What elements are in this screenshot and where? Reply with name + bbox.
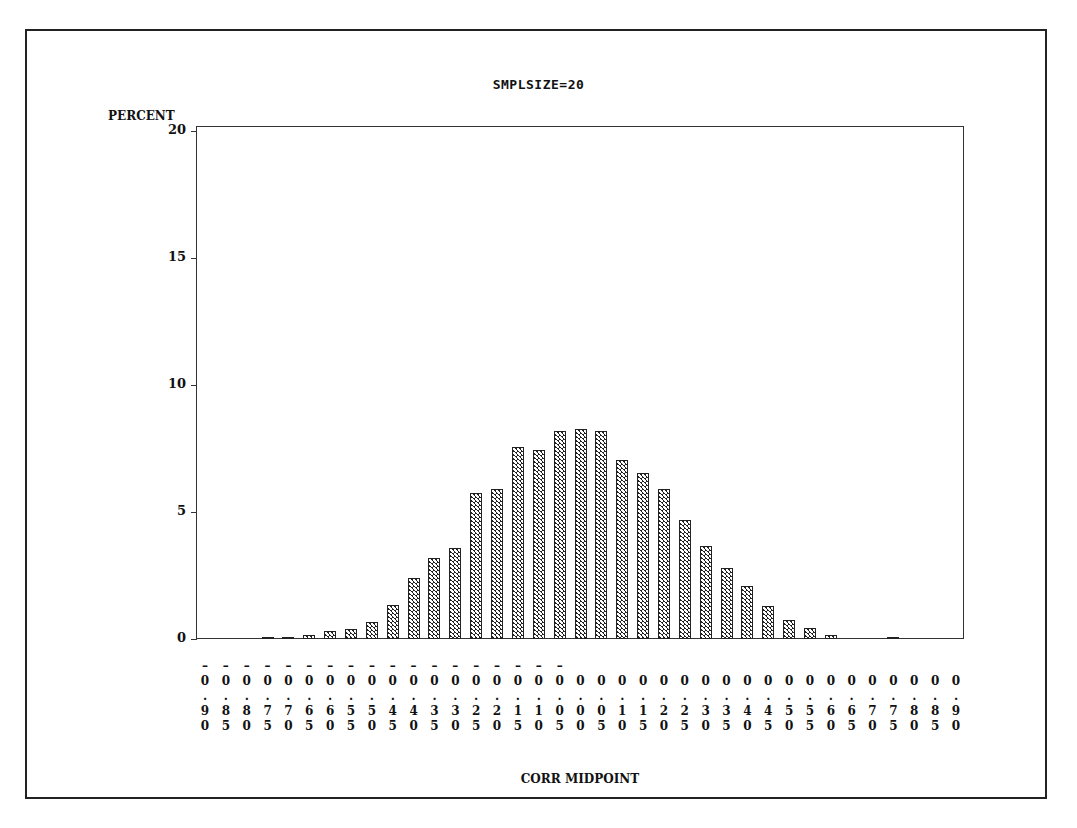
histogram-bar bbox=[303, 635, 315, 639]
y-tick-label: 5 bbox=[146, 503, 186, 518]
y-tick-label: 20 bbox=[146, 122, 186, 137]
x-tick-label: 0.10 bbox=[615, 674, 629, 734]
x-tick-label: 0.25 bbox=[678, 674, 692, 734]
histogram-bar bbox=[533, 450, 545, 639]
y-tick-mark bbox=[191, 258, 197, 259]
x-tick-label: –0.20 bbox=[490, 659, 504, 734]
x-tick-label: –0.45 bbox=[386, 659, 400, 734]
histogram-bar bbox=[345, 629, 357, 639]
histogram-bar bbox=[741, 586, 753, 639]
x-tick-label: 0.40 bbox=[740, 674, 754, 734]
y-tick-label: 0 bbox=[146, 630, 186, 645]
histogram-bar bbox=[721, 568, 733, 639]
x-tick-label: 0.80 bbox=[907, 674, 921, 734]
histogram-bar bbox=[762, 606, 774, 639]
histogram-bar bbox=[575, 429, 587, 639]
chart-title: SMPLSIZE=20 bbox=[0, 77, 1077, 92]
histogram-bar bbox=[825, 635, 837, 639]
x-tick-label: –0.70 bbox=[281, 659, 295, 734]
histogram-bar bbox=[449, 548, 461, 639]
histogram-bar bbox=[804, 628, 816, 639]
histogram-bar bbox=[282, 637, 294, 639]
histogram-bar bbox=[658, 489, 670, 639]
x-tick-label: 0.75 bbox=[886, 674, 900, 734]
x-tick-label: 0.85 bbox=[928, 674, 942, 734]
x-tick-label: –0.30 bbox=[448, 659, 462, 734]
x-tick-label: 0.00 bbox=[574, 674, 588, 734]
x-tick-label: –0.05 bbox=[553, 659, 567, 734]
histogram-bar bbox=[366, 622, 378, 639]
x-tick-label: 0.30 bbox=[699, 674, 713, 734]
histogram-bar bbox=[408, 578, 420, 639]
histogram-bar bbox=[554, 431, 566, 639]
y-axis-label: PERCENT bbox=[108, 109, 175, 123]
histogram-bar bbox=[700, 546, 712, 639]
histogram-bar bbox=[512, 447, 524, 639]
x-tick-label: 0.50 bbox=[782, 674, 796, 734]
histogram-bar bbox=[491, 489, 503, 639]
histogram-bar bbox=[679, 520, 691, 639]
histogram-bar bbox=[616, 460, 628, 639]
x-tick-label: –0.60 bbox=[323, 659, 337, 734]
x-tick-label: –0.50 bbox=[365, 659, 379, 734]
histogram-bar bbox=[387, 605, 399, 639]
x-tick-label: 0.15 bbox=[636, 674, 650, 734]
x-tick-label: –0.55 bbox=[344, 659, 358, 734]
x-tick-label: –0.15 bbox=[511, 659, 525, 734]
x-tick-label: 0.60 bbox=[824, 674, 838, 734]
x-tick-label: 0.05 bbox=[594, 674, 608, 734]
histogram-bar bbox=[428, 558, 440, 639]
x-tick-label: –0.35 bbox=[427, 659, 441, 734]
x-tick-label: –0.85 bbox=[219, 659, 233, 734]
x-tick-label: –0.75 bbox=[261, 659, 275, 734]
x-tick-label: 0.65 bbox=[845, 674, 859, 734]
x-tick-label: –0.90 bbox=[198, 659, 212, 734]
x-tick-label: –0.10 bbox=[532, 659, 546, 734]
x-tick-label: 0.45 bbox=[761, 674, 775, 734]
y-tick-mark bbox=[191, 131, 197, 132]
histogram-bar bbox=[262, 637, 274, 639]
x-tick-label: 0.35 bbox=[720, 674, 734, 734]
x-tick-label: –0.80 bbox=[240, 659, 254, 734]
histogram-bar bbox=[470, 493, 482, 639]
x-tick-label: 0.20 bbox=[657, 674, 671, 734]
y-tick-mark bbox=[191, 512, 197, 513]
x-tick-label: –0.25 bbox=[469, 659, 483, 734]
x-tick-label: 0.70 bbox=[866, 674, 880, 734]
x-axis-label: CORR MIDPOINT bbox=[0, 772, 1077, 786]
histogram-bar bbox=[595, 431, 607, 639]
x-tick-label: –0.65 bbox=[302, 659, 316, 734]
histogram-bar bbox=[637, 473, 649, 639]
histogram-bar bbox=[324, 631, 336, 639]
y-tick-label: 15 bbox=[146, 249, 186, 264]
y-tick-mark bbox=[191, 639, 197, 640]
x-tick-label: 0.55 bbox=[803, 674, 817, 734]
y-tick-mark bbox=[191, 385, 197, 386]
x-tick-label: 0.90 bbox=[949, 674, 963, 734]
histogram-bar bbox=[887, 637, 899, 639]
histogram-bar bbox=[783, 620, 795, 639]
y-tick-label: 10 bbox=[146, 376, 186, 391]
x-tick-label: –0.40 bbox=[407, 659, 421, 734]
